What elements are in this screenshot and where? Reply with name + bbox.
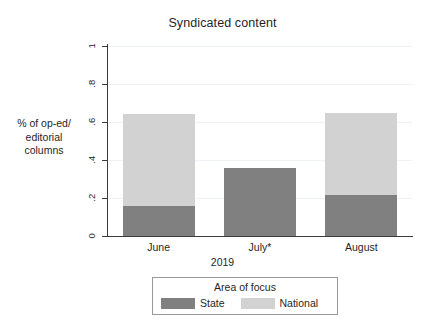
x-axis-title: 2019 (0, 256, 445, 268)
x-axis-label: August (301, 241, 421, 253)
legend-label: State (200, 297, 225, 309)
bar-segment-national[interactable] (123, 114, 195, 205)
y-tick-mark (102, 122, 107, 123)
x-axis-line (107, 236, 413, 237)
y-tick-label-text: .4 (87, 156, 97, 164)
y-tick-mark (102, 46, 107, 47)
y-tick-label: 0 (84, 229, 100, 243)
bar-group[interactable] (123, 46, 195, 236)
bar-segment-national[interactable] (325, 113, 397, 196)
legend-items: StateNational (153, 297, 337, 309)
legend-label: National (280, 297, 319, 309)
y-tick-label: .6 (84, 115, 100, 129)
y-tick-label: .8 (84, 77, 100, 91)
y-tick-mark (102, 84, 107, 85)
bar-segment-state[interactable] (224, 168, 296, 236)
bar-group[interactable] (224, 46, 296, 236)
y-tick-label: 1 (84, 39, 100, 53)
y-tick-mark (102, 160, 107, 161)
legend-item-state[interactable]: State (161, 297, 225, 309)
plot-area (108, 46, 412, 236)
y-axis-title-line-2: editorial (6, 131, 82, 145)
bar-segment-state[interactable] (123, 206, 195, 236)
y-tick-label-text: 1 (87, 43, 97, 48)
bar-segment-state[interactable] (325, 195, 397, 236)
chart-container: Syndicated content % of op-ed/ editorial… (0, 0, 445, 329)
y-tick-label: .4 (84, 153, 100, 167)
y-tick-label-text: .8 (87, 80, 97, 88)
bar-group[interactable] (325, 46, 397, 236)
y-tick-label: .2 (84, 191, 100, 205)
y-tick-label-text: 0 (87, 233, 97, 238)
y-axis-title-line-3: columns (6, 144, 82, 158)
legend: Area of focus StateNational (152, 277, 338, 315)
legend-swatch-national (241, 298, 275, 309)
y-tick-label-text: .6 (87, 118, 97, 126)
y-axis-title-line-1: % of op-ed/ (6, 117, 82, 131)
chart-title: Syndicated content (0, 16, 445, 30)
legend-item-national[interactable]: National (241, 297, 319, 309)
legend-title: Area of focus (153, 281, 337, 293)
y-tick-mark (102, 198, 107, 199)
legend-swatch-state (161, 298, 195, 309)
y-tick-mark (102, 236, 107, 237)
y-tick-label-text: .2 (87, 194, 97, 202)
y-axis-title: % of op-ed/ editorial columns (6, 117, 82, 158)
